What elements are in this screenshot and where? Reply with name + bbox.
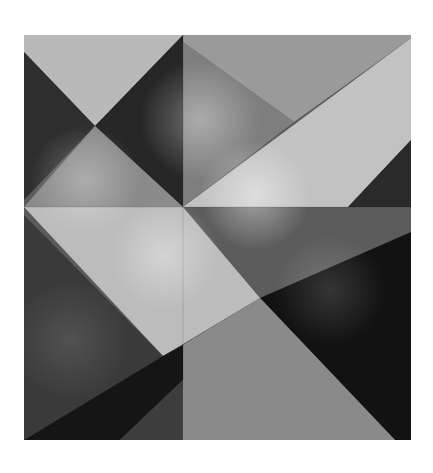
glow-center [110, 200, 220, 310]
glow-center-right [200, 140, 310, 250]
abstract-artwork [0, 0, 433, 473]
glow-lower-right [275, 235, 385, 345]
glow-lower-left [10, 280, 130, 400]
glow-left-mid [30, 125, 140, 235]
